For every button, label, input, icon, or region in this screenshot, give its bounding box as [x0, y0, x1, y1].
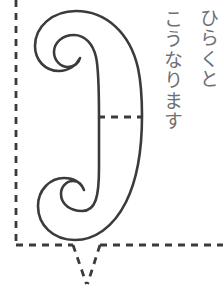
- v-notch-left-branch: [73, 245, 87, 284]
- v-notch-right-branch: [88, 245, 101, 284]
- diagram-canvas: ひらくと こうなります: [0, 0, 223, 297]
- fold-diagram-svg: [0, 0, 223, 297]
- curved-flap-outline: [35, 11, 142, 240]
